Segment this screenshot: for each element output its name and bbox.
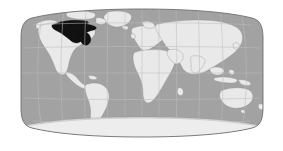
world-map-svg xyxy=(0,0,283,151)
world-map-figure: Robinson-style world projection, eastern… xyxy=(0,0,283,151)
landmass-japan xyxy=(233,43,239,50)
landmass-british-isles xyxy=(131,34,135,39)
highlight-northern-extension xyxy=(60,20,89,24)
